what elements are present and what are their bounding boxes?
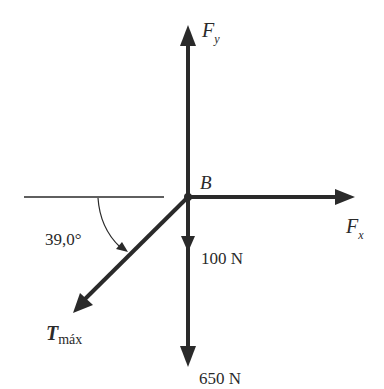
label-100n: 100 N — [201, 249, 243, 268]
force-tmax-arrow — [73, 197, 188, 313]
force-fx-arrow — [188, 189, 355, 205]
point-b — [184, 193, 192, 201]
label-fy: Fy — [201, 19, 220, 46]
label-b: B — [200, 172, 212, 193]
label-tmax: Tmáx — [46, 322, 82, 347]
force-650n-arrow — [180, 346, 196, 367]
force-100n-arrow — [181, 197, 195, 350]
free-body-diagram: Fy B Fx 100 N 650 N 39,0° Tmáx — [0, 0, 384, 389]
force-fy-arrow — [180, 25, 196, 197]
label-fx: Fx — [345, 215, 364, 242]
angle-arc — [98, 198, 128, 252]
label-650n: 650 N — [199, 369, 241, 388]
label-angle: 39,0° — [45, 230, 82, 249]
